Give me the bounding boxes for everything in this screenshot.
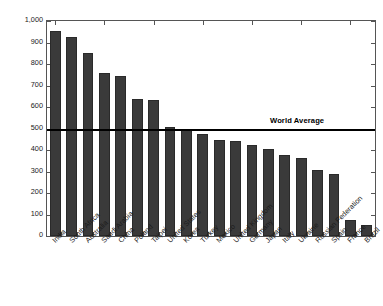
y-tick-label: 400 (3, 145, 43, 152)
y-tick-label: 500 (3, 124, 43, 131)
bar[interactable] (66, 37, 77, 236)
y-tick-label: 100 (3, 210, 43, 217)
y-tick-label: 600 (3, 102, 43, 109)
bar[interactable] (99, 73, 110, 236)
y-tick-label: 300 (3, 167, 43, 174)
bar[interactable] (279, 155, 290, 236)
y-tick-label: 200 (3, 188, 43, 195)
y-tick-label: 1,000 (3, 16, 43, 23)
bar[interactable] (197, 134, 208, 236)
world-average-label: World Average (270, 116, 324, 125)
bar[interactable] (214, 140, 225, 236)
bar[interactable] (296, 158, 307, 236)
x-axis-tick-labels: IndiaSouth AfricaAustraliaSaudi ArabiaCh… (46, 239, 383, 306)
co2-intensity-bar-chart: grams CO2 / kilowatt hour World Average … (0, 0, 383, 306)
y-tick-label: 0 (3, 231, 43, 238)
bar[interactable] (230, 141, 241, 236)
bar[interactable] (148, 100, 159, 236)
bar[interactable] (165, 127, 176, 236)
plot-area: World Average (46, 20, 376, 237)
world-average-line (47, 129, 375, 131)
bar[interactable] (50, 31, 61, 236)
bar[interactable] (83, 53, 94, 236)
y-tick-label: 900 (3, 38, 43, 45)
y-tick-label: 800 (3, 59, 43, 66)
y-tick-label: 700 (3, 81, 43, 88)
